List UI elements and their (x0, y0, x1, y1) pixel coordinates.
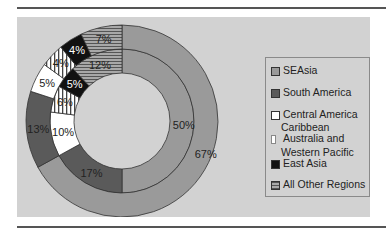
data-label: 50% (173, 119, 195, 131)
data-label: 4% (69, 44, 85, 56)
legend-item-australia: Australia and (271, 132, 344, 144)
legend-label: Central America (283, 108, 358, 120)
data-label: 6% (57, 96, 73, 108)
legend-item-east-asia: East Asia (271, 157, 327, 169)
legend-item-south-america: South America (271, 86, 351, 98)
top-rule (17, 7, 386, 9)
swatch-icon (271, 67, 280, 76)
data-label: 5% (67, 78, 83, 90)
legend-label: SEAsia (283, 64, 317, 76)
data-label: 5% (39, 77, 55, 89)
swatch-icon (271, 135, 276, 144)
data-label: 4% (53, 57, 69, 69)
data-label: 67% (195, 148, 217, 160)
data-label: 12% (89, 59, 111, 71)
swatch-icon (271, 181, 280, 190)
legend-label: All Other Regions (283, 178, 365, 190)
swatch-icon (271, 111, 280, 120)
legend-item-central-america: Central America (271, 108, 358, 120)
data-label: 17% (80, 167, 102, 179)
legend-label: South America (283, 86, 351, 98)
legend-item-seasia: SEAsia (271, 64, 317, 76)
legend-label: East Asia (283, 157, 327, 169)
chart-plot-area: 50%17%10%6%5%12%67%13%5%4%4%7% SEAsia So… (17, 17, 370, 217)
data-label: 13% (27, 123, 49, 135)
data-label: 7% (96, 33, 112, 45)
chart-legend: SEAsia South America Central America Car… (265, 57, 370, 197)
legend-label: Australia and (283, 132, 344, 144)
swatch-icon (271, 160, 280, 169)
legend-item-all-other: All Other Regions (271, 178, 365, 190)
data-label: 10% (52, 126, 74, 138)
bottom-rule (17, 226, 386, 228)
swatch-icon (271, 89, 280, 98)
